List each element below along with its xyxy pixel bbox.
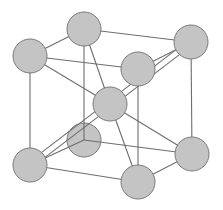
atom-front-top-left <box>13 39 47 73</box>
atom-center <box>93 87 127 121</box>
atom-front-top-right <box>121 52 155 86</box>
front-atoms-layer <box>13 12 209 199</box>
atom-back-bottom-right <box>175 137 209 171</box>
atom-back-top-right <box>174 25 208 59</box>
bcc-lattice-diagram <box>0 0 223 210</box>
atom-front-bottom-right <box>121 165 155 199</box>
atom-back-top-left <box>67 12 101 46</box>
atom-front-bottom-left <box>13 148 47 182</box>
